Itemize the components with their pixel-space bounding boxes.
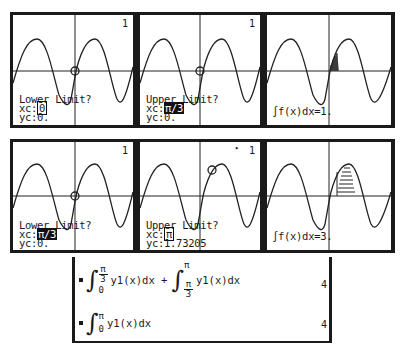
integrand: y1(x)dx + [111,274,168,286]
yc-value: 0. [37,111,49,123]
integrand: y1(x)dx [107,317,151,329]
upper-limit: π [184,261,193,270]
graph-panel-integral-result-1: ∫f(x)dx=1. [267,15,391,125]
lower-limit: π3 [184,280,193,299]
screenshot-row-1: 1 Lower Limit? xc:0 yc:0. 1 Upper Limit?… [10,12,395,128]
graph-number: 1 [122,18,128,29]
yc-line: yc:0. [146,113,176,123]
shaded-area [337,168,355,196]
screenshot-row-2: 1 Lower Limit? xc:π/3 yc:0. ▸ 1 Upper Li… [10,139,395,253]
graph-panel-lower-limit-0: 1 Lower Limit? xc:0 yc:0. [13,15,133,125]
integral-result: ∫f(x)dx=3. [272,232,332,242]
graph-number: 1 [249,145,255,156]
lower-limit: 0 [99,286,108,295]
graph-panel-lower-limit-pi3: 1 Lower Limit? xc:π/3 yc:0. [13,142,133,250]
integral-result: ∫f(x)dx=1. [272,107,332,117]
entry-result: 4 [321,279,327,290]
yc-line: yc:0. [19,113,49,123]
graph-number: 1 [122,145,128,156]
graph-panel-upper-limit-pi3: 1 Upper Limit? xc:π/3 yc:0. [140,15,260,125]
yc-value: 0. [164,111,176,123]
integral-sign-icon: ∫ [86,311,99,335]
entry-result: 4 [321,319,327,330]
graph-number: 1 [249,18,255,29]
yc-line: yc:1.73205 [146,239,206,249]
graph-panel-integral-result-3: ∫f(x)dx=3. [267,142,391,250]
upper-limit: π3 [99,265,108,284]
lower-limit: 0 [99,325,104,334]
history-entry-sum-of-integrals[interactable]: ∫ π3 0 y1(x)dx + ∫ π π3 y1(x)dx [79,261,240,299]
yc-line: yc:0. [19,239,49,249]
cursor-icon [208,166,216,174]
entry-bullet-icon [79,321,83,325]
entry-bullet-icon [79,278,83,282]
yc-value: 0. [37,237,49,249]
graph-panel-upper-limit-pi: ▸ 1 Upper Limit? xc:π yc:1.73205 [140,142,260,250]
home-screen-history: ∫ π3 0 y1(x)dx + ∫ π π3 y1(x)dx 4 ∫ π 0 … [72,257,332,343]
busy-indicator-icon: ▸ [235,144,239,152]
integrand: y1(x)dx [196,274,240,286]
integral-sign-icon: ∫ [86,268,99,292]
integral-sign-icon: ∫ [171,268,184,292]
upper-limit: π [99,312,104,321]
history-entry-single-integral[interactable]: ∫ π 0 y1(x)dx [79,311,151,335]
yc-value: 1.73205 [164,237,206,249]
